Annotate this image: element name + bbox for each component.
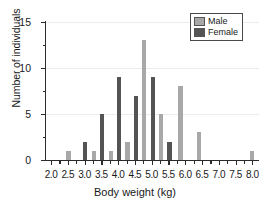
x-tick-minor — [227, 160, 228, 164]
bar-male — [159, 114, 163, 160]
plot-area: 051015 2.02.53.03.54.04.55.05.56.06.57.0… — [46, 22, 259, 160]
bar-female — [100, 114, 104, 160]
x-tick-minor — [59, 160, 60, 164]
histogram-figure: Number of individuals 051015 2.02.53.03.… — [0, 0, 270, 208]
bar-male — [125, 142, 129, 160]
x-tick-label: 4.0 — [112, 169, 125, 180]
bar-male — [142, 40, 146, 160]
bar-male — [250, 151, 254, 160]
bar-male — [109, 151, 113, 160]
x-tick-label: 6.0 — [179, 169, 192, 180]
x-tick-minor — [244, 160, 245, 164]
legend-swatch-female-icon — [194, 28, 205, 37]
chart-legend: Male Female — [190, 13, 243, 41]
x-tick-label: 4.5 — [129, 169, 142, 180]
y-tick — [41, 22, 46, 23]
x-tick-label: 5.5 — [162, 169, 175, 180]
y-tick — [41, 160, 46, 161]
bar-female — [167, 142, 171, 160]
x-tick-minor — [143, 160, 144, 164]
x-tick-minor — [194, 160, 195, 164]
y-tick-label: 0 — [5, 154, 31, 166]
y-tick-minor — [43, 137, 47, 138]
gridline — [46, 68, 259, 69]
x-tick — [51, 160, 52, 165]
x-tick-label: 6.5 — [196, 169, 209, 180]
x-tick — [219, 160, 220, 165]
x-tick-label: 3.0 — [78, 169, 91, 180]
x-tick-label: 8.0 — [246, 169, 259, 180]
y-tick-minor — [43, 45, 47, 46]
legend-swatch-male-icon — [194, 17, 205, 26]
x-tick — [236, 160, 237, 165]
x-tick — [135, 160, 136, 165]
x-tick-label: 7.5 — [229, 169, 242, 180]
x-tick-label: 3.5 — [95, 169, 108, 180]
y-tick-label: 10 — [5, 62, 31, 74]
x-tick-label: 2.0 — [45, 169, 58, 180]
x-tick — [252, 160, 253, 165]
x-tick-minor — [76, 160, 77, 164]
y-tick-minor — [43, 91, 47, 92]
bar-male — [92, 151, 96, 160]
x-tick-minor — [210, 160, 211, 164]
y-tick-label: 5 — [5, 108, 31, 120]
x-tick — [185, 160, 186, 165]
y-tick — [41, 114, 46, 115]
bar-male — [197, 132, 201, 160]
y-tick-label: 15 — [5, 16, 31, 28]
y-tick — [41, 68, 46, 69]
x-tick — [118, 160, 119, 165]
x-tick-minor — [110, 160, 111, 164]
x-tick — [101, 160, 102, 165]
bar-male — [178, 86, 182, 160]
legend-item-male: Male — [194, 17, 238, 27]
x-tick-label: 7.0 — [212, 169, 225, 180]
x-tick-minor — [127, 160, 128, 164]
x-tick — [168, 160, 169, 165]
x-tick — [85, 160, 86, 165]
bar-female — [117, 77, 121, 160]
x-tick — [152, 160, 153, 165]
bar-male — [66, 151, 70, 160]
bar-female — [134, 96, 138, 160]
x-tick — [202, 160, 203, 165]
bar-female — [151, 77, 155, 160]
x-tick-minor — [177, 160, 178, 164]
x-tick-minor — [160, 160, 161, 164]
bar-female — [83, 142, 87, 160]
legend-label-female: Female — [208, 28, 238, 37]
legend-item-female: Female — [194, 27, 238, 37]
legend-label-male: Male — [208, 17, 228, 26]
x-tick-label: 2.5 — [61, 169, 74, 180]
x-axis-title: Body weight (kg) — [0, 186, 270, 198]
x-tick — [68, 160, 69, 165]
x-tick-minor — [93, 160, 94, 164]
x-tick-label: 5.0 — [145, 169, 158, 180]
